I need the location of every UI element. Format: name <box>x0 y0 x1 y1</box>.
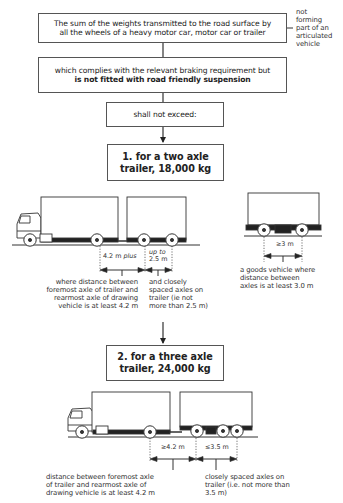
caption-line: foremost axle of trailer and <box>40 286 138 294</box>
three-axle-caption-spacing: distance between foremost axle of traile… <box>46 473 176 497</box>
caption-line: distance between <box>240 274 340 282</box>
truck-three-axle-trailer-illustration <box>68 392 258 438</box>
dim-value: 4.2 m <box>103 252 121 260</box>
two-axle-limit-box: 1. for a two axle trailer, 18,000 kg <box>107 144 224 181</box>
weight-definition-line2: all the wheels of a heavy motor car, mot… <box>59 28 265 37</box>
caption-line: axles is at least 3.0 m <box>240 282 340 290</box>
note-line: vehicle <box>296 40 342 48</box>
three-axle-caption-close-axles: closely spaced axles on trailer (i.e. no… <box>205 473 325 497</box>
caption-line: trailer (ie not <box>149 294 219 302</box>
note-line: articulated <box>296 32 342 40</box>
caption-line: distance between foremost axle <box>46 473 176 481</box>
braking-requirement-line1: which complies with the relevant braking… <box>55 66 270 75</box>
caption-line: where distance between <box>40 278 138 286</box>
two-axle-limit-line1: 1. for a two axle <box>122 151 208 163</box>
three-axle-limit-box: 2. for a three axle trailer, 24,000 kg <box>106 345 224 381</box>
goods-vehicle-dim-label: ≥3 m <box>276 241 294 249</box>
two-axle-caption-close-axles: and closely spaced axles on trailer (ie … <box>149 278 219 310</box>
shall-not-exceed-text: shall not exceed: <box>133 110 196 119</box>
weight-definition-line1: The sum of the weights transmitted to th… <box>54 19 271 28</box>
caption-line: drawing vehicle is at least 4.2 m <box>46 489 176 497</box>
caption-line: a goods vehicle where <box>240 266 340 274</box>
caption-line: closely spaced axles on <box>205 473 325 481</box>
two-axle-limit-line2: trailer, 18,000 kg <box>120 163 211 175</box>
goods-vehicle-illustration <box>244 193 322 236</box>
caption-line: vehicle is at least 4.2 m <box>40 302 138 310</box>
caption-line: and closely <box>149 278 219 286</box>
suspension-condition-text: is not fitted with road friendly suspens… <box>74 75 250 84</box>
three-axle-dim-3-5m-label: ≤3.5 m <box>205 444 229 452</box>
caption-line: trailer (i.e. not more than <box>205 481 325 489</box>
dim-line2: 2.5 m <box>149 256 167 263</box>
note-line: forming <box>296 16 342 24</box>
caption-line: more than 2.5 m) <box>149 302 219 310</box>
note-line: not <box>296 8 342 16</box>
truck-two-axle-trailer-illustration <box>12 197 200 246</box>
articulated-vehicle-note: not forming part of an articulated vehic… <box>296 8 342 48</box>
goods-vehicle-caption: a goods vehicle where distance between a… <box>240 266 340 290</box>
note-line: part of an <box>296 24 342 32</box>
two-axle-caption-spacing: where distance between foremost axle of … <box>40 278 138 310</box>
braking-requirement-box: which complies with the relevant braking… <box>38 57 287 93</box>
three-axle-limit-line2: trailer, 24,000 kg <box>120 363 211 375</box>
three-axle-limit-line1: 2. for a three axle <box>117 351 212 363</box>
caption-line: spaced axles on <box>149 286 219 294</box>
three-axle-dim-4-2m-label: ≥4.2 m <box>161 444 185 452</box>
dim-suffix: plus <box>123 252 136 260</box>
two-axle-dim-2-5m-label: up to 2.5 m <box>149 249 167 263</box>
two-axle-dim-4-2m-label: 4.2 m plus <box>103 253 137 261</box>
caption-line: rearmost axle of drawing <box>40 294 138 302</box>
caption-line: of trailer and rearmost axle of <box>46 481 176 489</box>
weight-definition-box: The sum of the weights transmitted to th… <box>38 13 287 43</box>
caption-line: 3.5 m) <box>205 489 325 497</box>
shall-not-exceed-box: shall not exceed: <box>106 102 224 127</box>
